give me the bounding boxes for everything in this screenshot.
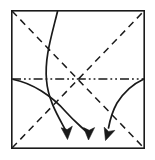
origami-figure: Origami fold step diagram xyxy=(0,0,155,160)
origami-diagram: Origami fold step diagram xyxy=(0,0,155,160)
